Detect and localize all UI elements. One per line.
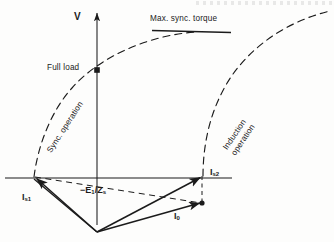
is2-subscript: s2 [213,171,220,177]
is2-phasor-label: Is2 [210,168,219,177]
max-torque-tangent-line [152,31,231,33]
max-sync-torque-label: Max. sync. torque [150,15,217,23]
is1-phasor-label: Is1 [22,193,31,202]
e-over-z-denominator-subscript: s [103,189,106,195]
i0-phasor-label: I0 [174,212,180,221]
induction-operation-curve [203,11,330,176]
i0-phasor-arrow [97,203,200,232]
full-load-marker [94,67,100,73]
is1-subscript: s1 [25,196,32,202]
vertical-axis-label: V [74,12,81,22]
full-load-label: Full load [47,64,79,72]
e-over-z-label: −E1/Zs [80,186,106,195]
i0-subscript: 0 [177,215,180,221]
scan-artifact-top [196,1,332,5]
figure-canvas: V Max. sync. torque Full load Sync. oper… [0,0,334,242]
is2-phasor-arrow [97,178,201,233]
i0-tip-marker [199,200,204,205]
diagram-vector-layer [0,0,334,242]
sync-operation-curve [34,32,196,177]
